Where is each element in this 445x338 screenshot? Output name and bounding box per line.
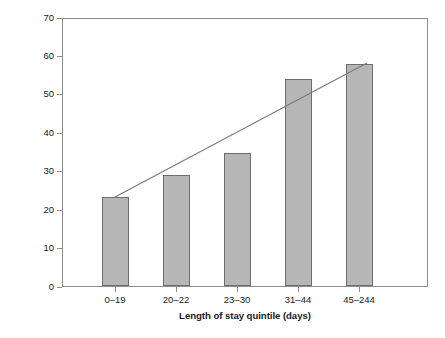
x-tick-mark-20-22 (176, 287, 177, 292)
x-tick-label-45-244: 45–244 (324, 294, 394, 305)
x-tick-label-0-19: 0–19 (80, 294, 150, 305)
x-tick-mark-0-19 (115, 287, 116, 292)
bar-31-44 (285, 79, 312, 286)
y-tick-mark-0 (57, 287, 62, 288)
bar-23-30 (224, 153, 251, 286)
x-tick-mark-45-244 (359, 287, 360, 292)
bar-0-19 (102, 197, 129, 286)
y-tick-label-10: 10 (28, 243, 54, 253)
x-tick-label-23-30: 23–30 (202, 294, 272, 305)
x-axis-title: Length of stay quintile (days) (62, 310, 428, 321)
chart-figure: Per cent (%) of babies with infection 70… (0, 0, 445, 338)
y-tick-label-20: 20 (28, 205, 54, 215)
y-tick-label-50: 50 (28, 89, 54, 99)
y-tick-label-40: 40 (28, 128, 54, 138)
x-tick-label-20-22: 20–22 (141, 294, 211, 305)
bar-45-244 (346, 64, 373, 286)
x-tick-label-31-44: 31–44 (263, 294, 333, 305)
y-tick-label-70: 70 (28, 13, 54, 23)
x-tick-mark-23-30 (237, 287, 238, 292)
bar-20-22 (163, 175, 190, 286)
y-tick-label-60: 60 (28, 51, 54, 61)
y-tick-label-0: 0 (28, 282, 54, 292)
x-tick-mark-31-44 (298, 287, 299, 292)
y-tick-label-30: 30 (28, 166, 54, 176)
